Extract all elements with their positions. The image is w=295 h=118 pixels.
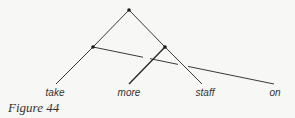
node-right-inner <box>163 45 167 49</box>
edge-right-inner-to-more <box>129 47 165 84</box>
edge-left-inner-to-take <box>56 47 93 84</box>
node-root <box>127 8 131 12</box>
node-left-inner <box>91 45 95 49</box>
edge-right-inner-to-staff <box>165 47 202 84</box>
crossing-gap-more <box>143 57 150 58</box>
edge-root-to-right-inner <box>129 10 165 47</box>
leaf-label-on: on <box>269 87 280 98</box>
edge-root-to-left-inner <box>93 10 129 47</box>
figure-caption: Figure 44 <box>8 100 59 116</box>
leaf-label-take: take <box>46 87 65 98</box>
leaf-label-more: more <box>118 87 141 98</box>
leaf-label-staff: staff <box>196 87 215 98</box>
